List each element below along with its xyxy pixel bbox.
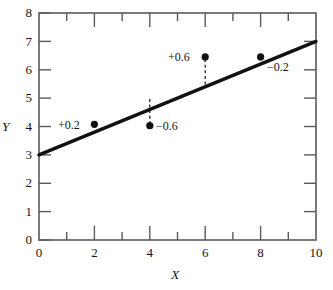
- y-tick-label-3: 3: [14, 148, 32, 161]
- y-tick-label-4: 4: [14, 120, 32, 133]
- x-tick-label-0: 0: [27, 246, 51, 259]
- data-point-x4: [146, 122, 153, 129]
- residual-label-x8: −0.2: [267, 61, 289, 73]
- data-point-x8: [257, 53, 264, 60]
- y-tick-label-0: 0: [14, 233, 32, 246]
- y-axis-ticks-left: [39, 13, 51, 240]
- y-tick-label-7: 7: [14, 35, 32, 48]
- data-point-x2: [91, 121, 98, 128]
- y-tick-label-2: 2: [14, 176, 32, 189]
- x-tick-label-2: 2: [82, 246, 106, 259]
- x-tick-label-10: 10: [304, 246, 328, 259]
- y-tick-label-5: 5: [14, 91, 32, 104]
- data-points: [91, 53, 264, 129]
- y-axis-title: Y: [2, 120, 10, 134]
- x-tick-label-4: 4: [138, 246, 162, 259]
- residual-label-x6: +0.6: [168, 51, 190, 63]
- residual-label-x2: +0.2: [58, 119, 80, 131]
- x-tick-label-6: 6: [193, 246, 217, 259]
- y-tick-label-6: 6: [14, 63, 32, 76]
- regression-residual-chart: 0 1 2 3 4 5 6 7 8 0 2 4 6 8 10 Y X +0.2 …: [0, 0, 333, 290]
- x-tick-label-8: 8: [249, 246, 273, 259]
- y-tick-label-8: 8: [14, 6, 32, 19]
- data-point-x6: [202, 53, 209, 60]
- y-axis-ticks-right: [304, 41, 316, 211]
- x-axis-ticks-bottom: [67, 226, 289, 240]
- x-axis-ticks-top: [67, 13, 289, 27]
- x-axis-title: X: [171, 268, 179, 282]
- y-tick-label-1: 1: [14, 205, 32, 218]
- residual-label-x4: −0.6: [156, 120, 178, 132]
